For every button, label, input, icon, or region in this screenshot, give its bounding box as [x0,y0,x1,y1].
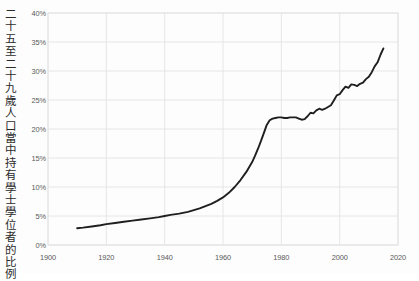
data-series-line [77,48,383,228]
grid-lines [48,13,398,245]
